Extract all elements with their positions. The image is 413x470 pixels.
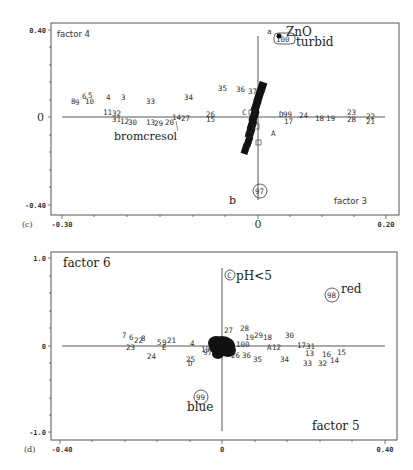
annotation-ph: pH<5 xyxy=(236,269,272,283)
ph-circle-letter: C xyxy=(227,271,232,280)
svg-text:15: 15 xyxy=(206,115,215,124)
y-tick-bot-c: -0.40 xyxy=(25,202,46,210)
svg-text:29: 29 xyxy=(254,331,263,340)
svg-text:17: 17 xyxy=(284,117,293,126)
svg-text:32: 32 xyxy=(318,359,327,368)
svg-text:24: 24 xyxy=(147,352,157,361)
annotation-turbid: turbid xyxy=(296,35,334,49)
x-ticks-d xyxy=(60,440,385,444)
annotation-blue: blue xyxy=(187,400,213,414)
panel-label-c: (c) xyxy=(22,220,33,229)
svg-text:33: 33 xyxy=(146,97,155,106)
svg-text:23: 23 xyxy=(126,343,135,352)
svg-text:28: 28 xyxy=(347,115,357,124)
y-axis-label-d: factor 6 xyxy=(63,256,111,270)
svg-text:36: 36 xyxy=(236,85,246,94)
point-98-marker-c xyxy=(277,34,282,39)
x-tick-left-c: -0.30 xyxy=(51,221,72,229)
svg-text:12: 12 xyxy=(272,343,281,352)
svg-text:21: 21 xyxy=(366,117,375,126)
point-a-c: a xyxy=(267,27,272,36)
point-97-c: 97 xyxy=(255,187,264,196)
y-tick-top-d: 1.0 xyxy=(33,255,46,263)
svg-text:21: 21 xyxy=(167,336,176,345)
svg-text:C: C xyxy=(242,108,247,117)
svg-text:13: 13 xyxy=(305,349,314,358)
svg-text:36: 36 xyxy=(242,351,252,360)
y-tick-top-c: 0.40 xyxy=(29,27,46,35)
svg-text:97: 97 xyxy=(203,348,212,357)
x-tick-left-d: -0.40 xyxy=(51,446,72,454)
svg-text:37: 37 xyxy=(248,87,257,96)
svg-text:D: D xyxy=(188,359,193,368)
x-tick-right-d: 0.40 xyxy=(377,446,394,454)
svg-text:100: 100 xyxy=(236,340,250,349)
svg-text:18: 18 xyxy=(315,114,325,123)
svg-text:33: 33 xyxy=(303,359,312,368)
x-tick-mid-d: 0 xyxy=(220,446,224,454)
svg-text:27: 27 xyxy=(224,326,233,335)
svg-text:14: 14 xyxy=(330,356,340,365)
svg-text:7: 7 xyxy=(122,331,127,340)
svg-text:18: 18 xyxy=(263,333,273,342)
svg-text:26: 26 xyxy=(231,351,241,360)
annotation-bromcresol: bromcresol xyxy=(114,130,178,143)
x-axis-label-d: factor 5 xyxy=(312,419,360,433)
x-tick-right-c: 0.20 xyxy=(378,221,395,229)
svg-text:19: 19 xyxy=(326,114,335,123)
x-tick-mid-c: 0 xyxy=(255,218,262,231)
svg-text:28: 28 xyxy=(240,324,250,333)
y-axis-label-c: factor 4 xyxy=(57,29,90,39)
svg-text:29: 29 xyxy=(154,119,163,128)
svg-text:3: 3 xyxy=(121,93,126,102)
svg-text:4: 4 xyxy=(190,339,195,348)
svg-text:27: 27 xyxy=(181,114,190,123)
panel-c: 0.40 0 -0.40 -0.30 0 0.20 (c) factor 4 f… xyxy=(22,23,399,231)
y-tick-mid-d: 0 xyxy=(42,343,46,351)
figure: 0.40 0 -0.40 -0.30 0 0.20 (c) factor 4 f… xyxy=(0,0,413,470)
svg-text:9: 9 xyxy=(75,98,80,107)
point-98-d: 98 xyxy=(327,291,337,300)
svg-text:4: 4 xyxy=(106,93,111,102)
svg-text:8: 8 xyxy=(141,334,146,343)
x-ticks-c xyxy=(62,215,386,219)
svg-text:30: 30 xyxy=(285,331,295,340)
svg-text:35: 35 xyxy=(253,355,262,364)
y-tick-mid-c: 0 xyxy=(37,111,44,124)
y-tick-bot-d: -1.0 xyxy=(29,429,46,437)
svg-text:11: 11 xyxy=(103,108,112,117)
panel-d: 1.0 0 -1.0 -0.40 0 0.40 (d) factor 6 fac… xyxy=(24,252,397,454)
svg-text:34: 34 xyxy=(280,355,290,364)
panel-label-d: (d) xyxy=(24,445,35,454)
svg-text:5: 5 xyxy=(157,338,162,347)
svg-text:24: 24 xyxy=(299,111,309,120)
x-axis-label-c: factor 3 xyxy=(334,196,367,206)
svg-text:35: 35 xyxy=(218,84,227,93)
point-b-c: b xyxy=(229,194,236,207)
svg-text:34: 34 xyxy=(184,93,194,102)
svg-text:E: E xyxy=(162,343,167,352)
svg-text:30: 30 xyxy=(128,118,138,127)
svg-text:10: 10 xyxy=(85,97,95,106)
svg-text:A: A xyxy=(271,129,276,138)
annotation-red: red xyxy=(341,282,362,296)
